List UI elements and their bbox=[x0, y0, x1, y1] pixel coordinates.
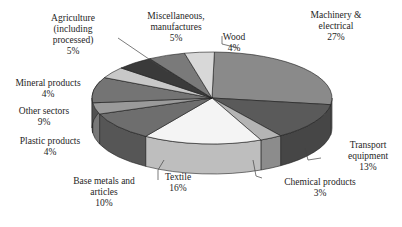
label-text: Agriculture bbox=[51, 13, 95, 24]
slice-label-mineral-products: Mineral products4% bbox=[15, 78, 80, 100]
slice-label-base-metals-and-articles: Base metals andarticles10% bbox=[73, 176, 135, 209]
slice-label-other-sectors: Other sectors9% bbox=[19, 106, 69, 128]
label-text: 10% bbox=[73, 198, 135, 209]
label-text: 27% bbox=[311, 32, 362, 43]
label-text: processed) bbox=[51, 35, 95, 46]
slice-label-transport-equipment: Transportequipment13% bbox=[348, 140, 388, 173]
label-text: equipment bbox=[348, 151, 388, 162]
label-text: Machinery & bbox=[311, 10, 362, 21]
label-text: 4% bbox=[15, 89, 80, 100]
slice-label-wood: Wood4% bbox=[223, 32, 245, 54]
label-text: Wood bbox=[223, 32, 245, 43]
slice-top-0 bbox=[212, 52, 332, 105]
label-text: Miscellaneous, bbox=[147, 11, 204, 22]
label-text: articles bbox=[73, 187, 135, 198]
label-text: Transport bbox=[348, 140, 388, 151]
label-text: electrical bbox=[311, 21, 362, 32]
label-text: 5% bbox=[147, 33, 204, 44]
slice-side-2 bbox=[261, 136, 281, 170]
label-text: 4% bbox=[20, 147, 80, 158]
slice-label-plastic-products: Plastic products4% bbox=[20, 136, 80, 158]
label-text: Chemical products bbox=[284, 177, 356, 188]
slice-label-textile: Textile16% bbox=[165, 172, 191, 194]
label-text: 4% bbox=[223, 43, 245, 54]
label-text: 13% bbox=[348, 162, 388, 173]
slice-label-miscellaneous-manufactures: Miscellaneous,manufactures5% bbox=[147, 11, 204, 44]
slice-label-machinery-electrical: Machinery &electrical27% bbox=[311, 10, 362, 43]
label-text: Plastic products bbox=[20, 136, 80, 147]
label-text: 9% bbox=[19, 117, 69, 128]
label-text: 3% bbox=[284, 188, 356, 199]
label-text: 5% bbox=[51, 46, 95, 57]
label-text: manufactures bbox=[147, 22, 204, 33]
slice-label-agriculture-including-processed: Agriculture(includingprocessed)5% bbox=[51, 13, 95, 57]
label-text: 16% bbox=[165, 183, 191, 194]
label-text: Base metals and bbox=[73, 176, 135, 187]
label-text: Textile bbox=[165, 172, 191, 183]
slice-label-chemical-products: Chemical products3% bbox=[284, 177, 356, 199]
label-text: Other sectors bbox=[19, 106, 69, 117]
label-text: Mineral products bbox=[15, 78, 80, 89]
label-text: (including bbox=[51, 24, 95, 35]
